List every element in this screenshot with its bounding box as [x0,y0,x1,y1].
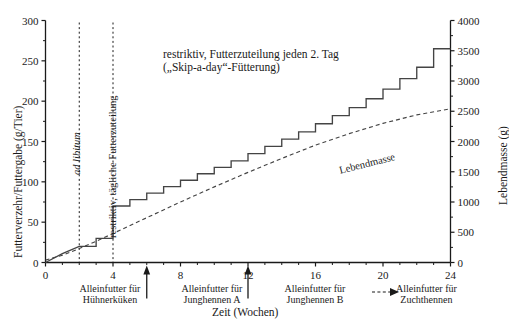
y2-tick-label-500: 500 [458,226,475,238]
y-axis-label: Futterverzehr/Futtergabe (g/Tier) [12,106,24,258]
y-tick-label-200: 200 [22,95,39,107]
phase-label-junghennen-b: Alleinfutter für Junghennen B [255,283,375,305]
y-tick-label-150: 150 [22,136,39,148]
y2-tick-label-3500: 3500 [458,45,481,57]
x-tick-label-16: 16 [310,269,322,281]
y-tick-label-300: 300 [22,15,39,27]
phase-label-junghennen-b-line-2: Junghennen B [255,294,375,305]
annotation-restriktiv-taeglich: restriktiv, tägliche Futterzuteilung [107,96,118,239]
y2-tick-label-1500: 1500 [458,166,481,178]
y2-tick-label-1000: 1000 [458,196,481,208]
x-axis-label: Zeit (Wochen) [212,306,278,318]
phase-label-zuchthennen-line-1: Alleinfutter für [396,283,457,294]
chart-title-line-2: („Skip-a-day“-Fütterung) [163,61,339,74]
phase-label-zuchthennen-line-2: Zuchthennen [396,294,457,305]
y2-tick-label-2500: 2500 [458,105,481,117]
y2-tick-label-2000: 2000 [458,136,481,148]
phase-label-junghennen-a: Alleinfutter für Junghennen A [152,283,272,305]
phase-label-zuchthennen: Alleinfutter für Zuchthennen [396,283,457,305]
y-tick-label-50: 50 [28,216,40,228]
y2-tick-label-0: 0 [458,257,464,269]
y2-tick-label-4000: 4000 [458,15,481,27]
chart-title: restriktiv, Futterzuteilung jeden 2. Tag… [163,48,339,74]
y-tick-label-0: 0 [33,257,39,269]
annotation-ad-libitum: ad libitum [71,132,82,175]
chart-title-line-1: restriktiv, Futterzuteilung jeden 2. Tag [163,48,339,61]
phase-label-junghennen-b-line-1: Alleinfutter für [255,283,375,294]
x-tick-label-8: 8 [178,269,184,281]
y2-tick-label-3000: 3000 [458,75,481,87]
y-tick-label-250: 250 [22,55,39,67]
phase-label-junghennen-a-line-1: Alleinfutter für [152,283,272,294]
phase-label-junghennen-a-line-2: Junghennen A [152,294,272,305]
x-tick-label-0: 0 [43,269,49,281]
x-tick-label-20: 20 [378,269,390,281]
x-tick-label-4: 4 [110,269,116,281]
y-tick-label-100: 100 [22,176,39,188]
y2-axis-label: Lebendmasse (g) [497,126,509,205]
x-tick-label-24: 24 [445,269,457,281]
phase-arrow-week-6-head [143,266,150,275]
